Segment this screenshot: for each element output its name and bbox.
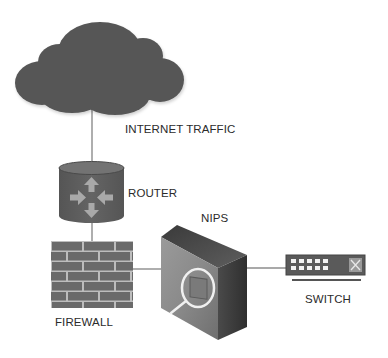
router-icon xyxy=(59,162,124,224)
firewall-brick-icon xyxy=(51,241,133,308)
nips-appliance-icon xyxy=(161,225,247,340)
switch-crossover-icon xyxy=(349,258,362,272)
cloud-icon xyxy=(15,22,184,115)
label-internet-traffic: INTERNET TRAFFIC xyxy=(125,122,235,136)
label-firewall: FIREWALL xyxy=(55,315,113,329)
label-switch: SWITCH xyxy=(305,292,351,306)
network-diagram: INTERNET TRAFFIC ROUTER NIPS FIREWALL SW… xyxy=(0,0,388,358)
label-router: ROUTER xyxy=(128,186,177,200)
label-nips: NIPS xyxy=(201,211,228,225)
switch-icon xyxy=(286,255,365,280)
